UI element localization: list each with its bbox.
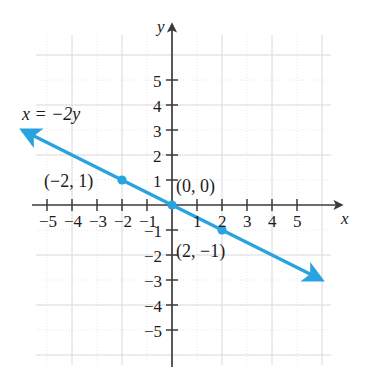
y-tick-label-4: 4 [153, 98, 162, 115]
y-tick-label-neg1: −1 [144, 223, 162, 240]
y-tick-label-2: 2 [153, 148, 162, 165]
point-label-2-neg1: (2, −1) [176, 242, 225, 260]
y-tick-label-neg3: −3 [144, 273, 162, 290]
y-tick-label-5: 5 [153, 73, 162, 90]
graph-figure: x = −2y (−2, 1) (0, 0) (2, −1) −5 −4 −3 … [0, 0, 367, 385]
x-tick-label-2: 2 [218, 213, 227, 230]
major-gridlines [36, 35, 331, 365]
gridlines [36, 35, 331, 365]
y-tick-label-1: 1 [153, 173, 162, 190]
y-tick-label-neg2: −2 [144, 248, 162, 265]
point-label-neg2-1: (−2, 1) [44, 172, 93, 190]
x-tick-label-3: 3 [243, 213, 252, 230]
x-tick-label-1: 1 [193, 213, 202, 230]
x-axis-label: x [341, 210, 349, 227]
x-tick-label-5: 5 [293, 213, 302, 230]
equation-label: x = −2y [22, 105, 80, 123]
point-label-origin: (0, 0) [176, 177, 215, 195]
x-tick-label-4: 4 [268, 213, 277, 230]
y-axis-label: y [157, 18, 165, 35]
data-point-marker [117, 175, 126, 184]
y-tick-label-3: 3 [153, 123, 162, 140]
x-tick-label-neg2: −2 [114, 213, 132, 230]
x-tick-label-neg4: −4 [64, 213, 82, 230]
x-tick-label-neg5: −5 [39, 213, 57, 230]
x-tick-label-neg3: −3 [89, 213, 107, 230]
y-tick-label-neg5: −5 [144, 323, 162, 340]
data-point-marker [167, 200, 176, 209]
y-tick-label-neg4: −4 [144, 298, 162, 315]
